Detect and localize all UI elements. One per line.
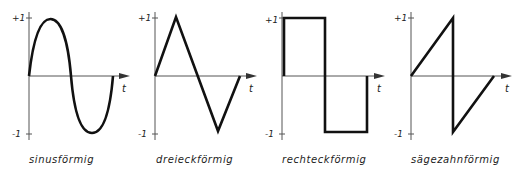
x-axis-arrow-icon [119, 73, 130, 79]
x-label: t [505, 83, 510, 94]
triangle-wave [155, 17, 240, 131]
panel-sawtooth: +1 -1 t [394, 12, 512, 140]
sawtooth-wave [411, 18, 494, 132]
caption-sawtooth: sägezahnförmig [411, 154, 500, 165]
square-wave [284, 18, 367, 132]
y-max-label: +1 [138, 13, 151, 23]
panel-sine: +1 -1 t [12, 12, 130, 140]
caption-triangle: dreieckförmig [156, 154, 233, 165]
y-min-label: -1 [265, 129, 274, 139]
y-min-label: -1 [12, 129, 21, 139]
x-axis-arrow-icon [246, 73, 257, 79]
x-label: t [249, 83, 254, 94]
y-max-label: +1 [265, 15, 278, 25]
panel-square: +1 -1 t [265, 12, 385, 140]
caption-square: rechteckförmig [282, 154, 366, 165]
caption-sine: sinusförmig [29, 154, 94, 165]
x-axis-arrow-icon [501, 73, 512, 79]
y-max-label: +1 [394, 13, 407, 23]
x-label: t [122, 83, 127, 94]
panel-triangle: +1 -1 t [138, 12, 257, 140]
waveform-figure: +1 -1 t +1 -1 t +1 -1 t +1 -1 t [0, 0, 522, 176]
y-min-label: -1 [394, 129, 403, 139]
y-min-label: -1 [138, 129, 147, 139]
y-max-label: +1 [12, 13, 25, 23]
x-label: t [377, 83, 382, 94]
x-axis-arrow-icon [374, 73, 385, 79]
